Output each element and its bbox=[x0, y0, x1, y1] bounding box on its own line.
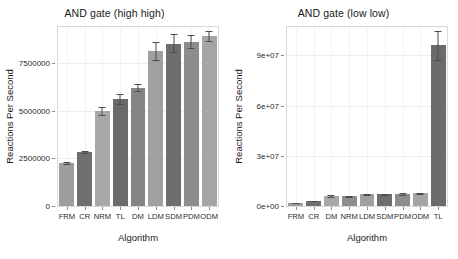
error-bar-cap-upper bbox=[99, 107, 106, 108]
x-tick-label: DM bbox=[326, 212, 338, 221]
error-bar-line bbox=[191, 35, 192, 49]
error-bar-line bbox=[102, 107, 103, 115]
x-tick-mark bbox=[438, 207, 439, 210]
error-bar-cap-upper bbox=[117, 94, 124, 95]
x-tick-mark bbox=[191, 207, 192, 210]
error-bar-cap-lower bbox=[152, 60, 159, 61]
error-bar-cap-lower bbox=[117, 104, 124, 105]
y-tick-label: 3e+07 bbox=[257, 151, 279, 160]
bar bbox=[377, 194, 392, 206]
y-tick-label: 7500000 bbox=[19, 59, 50, 68]
error-bar-cap-lower bbox=[134, 91, 141, 92]
bar-slot bbox=[413, 27, 428, 206]
error-bar-line bbox=[209, 31, 210, 40]
x-tick-mark bbox=[420, 207, 421, 210]
y-tick-mark bbox=[52, 206, 55, 207]
error-bar-cap-upper bbox=[435, 31, 442, 32]
error-bar-cap-lower bbox=[99, 115, 106, 116]
x-tick-mark bbox=[331, 207, 332, 210]
error-bar-cap-upper bbox=[63, 162, 70, 163]
y-axis-label-low-low: Reactions Per Second bbox=[231, 26, 245, 207]
bar-slot bbox=[166, 27, 181, 206]
error-bar-cap-upper bbox=[170, 34, 177, 35]
bar-slot bbox=[59, 27, 74, 206]
x-tick-label: NRM bbox=[341, 212, 358, 221]
bars-group-low-low bbox=[287, 27, 447, 206]
error-bar-line bbox=[438, 31, 439, 59]
x-tick-label: LDM bbox=[148, 212, 164, 221]
x-tick-mark bbox=[385, 207, 386, 210]
y-tick-mark bbox=[52, 111, 55, 112]
error-bar-cap-lower bbox=[399, 195, 406, 196]
plot-area-high-high bbox=[57, 26, 219, 207]
bar bbox=[77, 152, 92, 206]
bar-slot bbox=[77, 27, 92, 206]
bar-slot bbox=[202, 27, 217, 206]
error-bar-cap-upper bbox=[81, 151, 88, 152]
x-tick-label: CR bbox=[308, 212, 319, 221]
y-tick-label: 2500000 bbox=[19, 154, 50, 163]
x-tick-mark bbox=[314, 207, 315, 210]
bar-slot bbox=[342, 27, 357, 206]
bar bbox=[148, 51, 163, 206]
x-tick-mark bbox=[156, 207, 157, 210]
error-bar-cap-lower bbox=[310, 201, 317, 202]
x-tick-mark bbox=[120, 207, 121, 210]
error-bar-line bbox=[155, 42, 156, 60]
panel-high-high: AND gate (high high) Reactions Per Secon… bbox=[0, 0, 229, 259]
error-bar-line bbox=[137, 84, 138, 91]
bar bbox=[113, 99, 128, 206]
x-tick-label: ODM bbox=[411, 212, 429, 221]
panel-title-low-low: AND gate (low low) bbox=[229, 7, 458, 19]
error-bar-cap-lower bbox=[417, 194, 424, 195]
x-tick-mark bbox=[174, 207, 175, 210]
bar bbox=[59, 163, 74, 206]
bar-slot bbox=[131, 27, 146, 206]
bar bbox=[95, 111, 110, 206]
bar-slot bbox=[113, 27, 128, 206]
y-tick-mark bbox=[281, 106, 284, 107]
bar bbox=[202, 36, 217, 206]
bar-slot bbox=[184, 27, 199, 206]
bar bbox=[184, 42, 199, 206]
y-tick-label: 0 bbox=[46, 202, 50, 211]
panel-low-low: AND gate (low low) Reactions Per Second … bbox=[229, 0, 458, 259]
x-tick-label: PDM bbox=[394, 212, 411, 221]
x-tick-label: PDM bbox=[183, 212, 200, 221]
plot-area-low-low bbox=[286, 26, 448, 207]
x-tick-label: NRM bbox=[94, 212, 111, 221]
y-tick-label: 9e+07 bbox=[257, 51, 279, 60]
x-tick-label: DM bbox=[132, 212, 144, 221]
x-tick-mark bbox=[349, 207, 350, 210]
bar-slot bbox=[360, 27, 375, 206]
x-tick-label: FRM bbox=[59, 212, 75, 221]
error-bar-cap-upper bbox=[188, 35, 195, 36]
error-bar-cap-lower bbox=[292, 203, 299, 204]
bar bbox=[131, 88, 146, 206]
x-tick-label: ODM bbox=[200, 212, 218, 221]
y-tick-label: 5000000 bbox=[19, 106, 50, 115]
error-bar-cap-lower bbox=[188, 48, 195, 49]
bar-slot bbox=[95, 27, 110, 206]
bar-slot bbox=[431, 27, 446, 206]
y-tick-mark bbox=[281, 206, 284, 207]
error-bar-cap-lower bbox=[381, 195, 388, 196]
y-tick-mark bbox=[52, 158, 55, 159]
error-bar-cap-lower bbox=[170, 52, 177, 53]
error-bar-cap-upper bbox=[134, 84, 141, 85]
error-bar-cap-lower bbox=[346, 197, 353, 198]
x-tick-label: SDM bbox=[376, 212, 393, 221]
error-bar-cap-lower bbox=[63, 164, 70, 165]
error-bar-line bbox=[173, 34, 174, 52]
x-tick-label: SDM bbox=[165, 212, 182, 221]
bar-slot bbox=[288, 27, 303, 206]
y-axis-label-high-high: Reactions Per Second bbox=[2, 26, 16, 207]
bars-group-high-high bbox=[58, 27, 218, 206]
bar-slot bbox=[324, 27, 339, 206]
y-tick-label: 0e+00 bbox=[257, 202, 279, 211]
figure-container: AND gate (high high) Reactions Per Secon… bbox=[0, 0, 458, 259]
bar-slot bbox=[306, 27, 321, 206]
bar bbox=[166, 44, 181, 206]
bar-slot bbox=[148, 27, 163, 206]
x-tick-mark bbox=[367, 207, 368, 210]
